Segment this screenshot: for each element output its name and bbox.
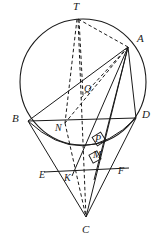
point-label-M: M (93, 150, 101, 160)
point-label-D: D (142, 109, 150, 120)
point-label-A: A (137, 33, 144, 44)
point-label-C: C (82, 224, 89, 235)
point-label-B: B (12, 113, 19, 124)
point-label-F: F (118, 166, 124, 176)
segment-B-C (28, 121, 86, 217)
segment-T-A (78, 19, 128, 47)
point-label-T: T (73, 1, 79, 12)
point-label-K: K (64, 173, 71, 183)
point-label-P: P (95, 134, 101, 144)
point-label-E: E (39, 170, 45, 180)
segment-B-A (28, 47, 128, 121)
segment-A-D (128, 47, 136, 118)
segment-D-C (86, 118, 136, 217)
geometry-figure: T A B D C Q N P M K E F (0, 0, 164, 242)
segment-T-N (65, 19, 77, 123)
segment-B-D (28, 118, 136, 121)
point-label-N: N (55, 123, 62, 133)
segment-T-C (78, 19, 86, 217)
point-label-Q: Q (84, 84, 91, 94)
